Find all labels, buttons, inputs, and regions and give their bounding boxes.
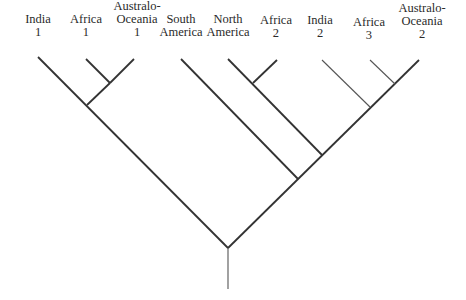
taxon-label-india-2: India2	[307, 14, 333, 40]
taxon-label-india-1: India1	[25, 13, 51, 39]
taxon-label-africa-1: Africa1	[70, 13, 102, 39]
taxon-label-line: 1	[70, 26, 102, 39]
branch-south-america-branch	[181, 59, 298, 179]
taxon-label-north-america: NorthAmerica	[206, 13, 249, 39]
phylogenetic-tree	[0, 0, 466, 300]
taxon-label-australo-oceania-1: Australo-Oceania1	[113, 0, 160, 39]
taxon-label-line: 2	[307, 27, 333, 40]
taxon-label-line: 1	[25, 26, 51, 39]
branch-north-america-branch	[228, 59, 322, 155]
taxon-label-line: 2	[398, 28, 445, 41]
branch-africa-3-branch	[370, 60, 395, 84]
taxon-label-australo-oceania-2: Australo-Oceania2	[398, 2, 445, 41]
branch-africa1-ao1-clade	[87, 83, 110, 105]
taxon-label-south-america: SouthAmerica	[159, 13, 202, 39]
taxon-label-line: 1	[113, 26, 160, 39]
taxon-label-line: America	[206, 26, 249, 39]
branch-africa-2-branch	[253, 60, 277, 83]
taxon-label-line: 2	[260, 27, 292, 40]
taxon-label-africa-3: Africa3	[353, 16, 385, 42]
taxon-label-line: America	[159, 26, 202, 39]
branch-ao-1-branch	[110, 59, 134, 83]
taxon-label-africa-2: Africa2	[260, 14, 292, 40]
branch-africa-1-branch	[86, 59, 110, 83]
branch-left-main	[38, 57, 228, 248]
branch-india-2-branch	[322, 60, 370, 107]
taxon-label-line: 3	[353, 29, 385, 42]
